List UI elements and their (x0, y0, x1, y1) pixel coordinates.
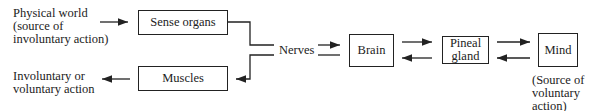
sense-organs-box: Sense organs (138, 10, 228, 35)
mind-note: (Source of voluntary action) (532, 74, 584, 111)
physical-world-label: Physical world (source of involuntary ac… (13, 7, 108, 46)
nerves-label: Nerves (279, 44, 314, 57)
pineal-gland-box: Pineal gland (442, 36, 489, 64)
brain-box: Brain (349, 34, 394, 67)
muscles-box: Muscles (138, 66, 228, 91)
mind-box: Mind (538, 33, 578, 67)
action-label: Involuntary or voluntary action (13, 70, 95, 96)
